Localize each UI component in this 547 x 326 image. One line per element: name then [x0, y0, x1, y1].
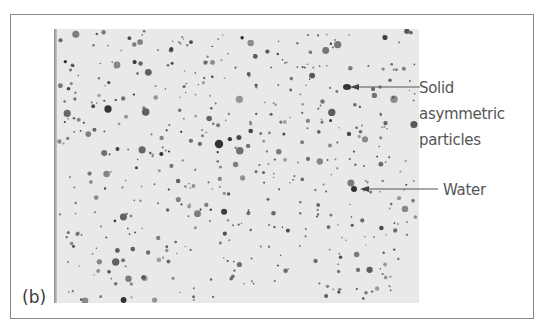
- panel-label: (b): [22, 287, 46, 307]
- label-solid-asymmetric-particles: Solid asymmetric particles: [419, 75, 505, 153]
- label-line: particles: [419, 127, 505, 153]
- particles-layer: [54, 29, 419, 303]
- label-line: Solid: [419, 75, 505, 101]
- label-line: Water: [443, 177, 486, 203]
- arrow-solid-particles: [350, 82, 422, 92]
- micrograph-image: [54, 29, 419, 303]
- arrow-water: [360, 184, 440, 194]
- label-water: Water: [443, 177, 486, 203]
- label-line: asymmetric: [419, 101, 505, 127]
